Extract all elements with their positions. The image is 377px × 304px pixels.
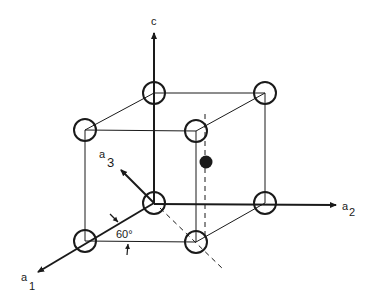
svg-text:a: a (99, 148, 106, 160)
svg-text:3: 3 (107, 155, 114, 170)
svg-text:1: 1 (29, 280, 35, 292)
atom-interior-filled (200, 156, 213, 169)
svg-text:2: 2 (349, 206, 355, 218)
corner-atoms (74, 82, 276, 253)
a1-axis-label: a 1 (21, 271, 35, 292)
angle-label: 60° (116, 228, 133, 240)
dashed-guides (160, 114, 224, 270)
svg-text:a: a (342, 200, 349, 212)
svg-text:a: a (21, 271, 28, 283)
hexagonal-unit-cell-diagram: c a 2 a 1 a 3 60° (0, 0, 377, 304)
c-axis-label: c (151, 15, 157, 27)
a2-axis-label: a 2 (342, 200, 355, 218)
a3-axis-label: a 3 (99, 148, 114, 170)
dashed-diagonal-line (160, 208, 224, 270)
a2-axis (154, 204, 336, 205)
a3-axis (121, 170, 154, 203)
